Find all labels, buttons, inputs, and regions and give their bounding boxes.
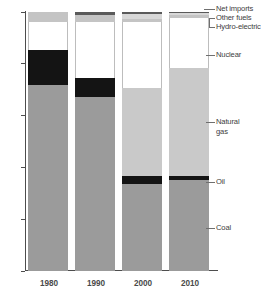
bar-segment-net-imports-2000 — [122, 12, 162, 15]
legend-label-oil: Oil — [216, 178, 225, 187]
legend-label-hydro-electric: Hydro-electric — [216, 23, 261, 32]
bar-segment-nuclear-1990 — [75, 22, 115, 78]
bar-segment-hydro-electric-1990 — [75, 15, 115, 21]
bar-segment-net-imports-2010 — [169, 12, 209, 13]
legend-label-natural: Natural — [216, 118, 239, 127]
x-axis-label-2000: 2000 — [123, 279, 163, 288]
legend-label-gas: gas — [216, 128, 228, 137]
bar-segment-coal-1980 — [28, 85, 68, 270]
bar-segment-other-fuels-2000 — [122, 14, 162, 19]
bar-segment-hydro-electric-1980 — [28, 12, 68, 22]
bar-segment-natural-gas-2010 — [169, 68, 209, 175]
x-axis-label-1980: 1980 — [29, 279, 69, 288]
bar-segment-oil-1980 — [28, 50, 68, 85]
y-axis-line — [25, 11, 26, 271]
bar-2010 — [169, 12, 209, 271]
bar-segment-nuclear-2010 — [169, 18, 209, 69]
bar-segment-other-fuels-2010 — [169, 13, 209, 16]
leader-line-coal — [206, 228, 215, 229]
bar-segment-coal-2000 — [122, 184, 162, 271]
leader-line-net-imports — [204, 9, 215, 10]
stacked-bar-chart: 100% 80% 60% 40% 20% 0% 1980 1990 2000 2… — [0, 0, 263, 290]
x-axis-label-2010: 2010 — [170, 279, 210, 288]
bar-segment-nuclear-1980 — [28, 22, 68, 50]
bar-segment-hydro-electric-2010 — [169, 15, 209, 18]
bar-segment-oil-2010 — [169, 176, 209, 180]
bar-segment-nuclear-2000 — [122, 22, 162, 88]
bar-segment-oil-2000 — [122, 176, 162, 184]
bar-1990 — [75, 12, 115, 271]
bar-2000 — [122, 12, 162, 271]
legend-label-coal: Coal — [216, 224, 231, 233]
bar-segment-net-imports-1990 — [75, 12, 115, 16]
bar-segment-coal-1990 — [75, 97, 115, 271]
bar-segment-coal-2010 — [169, 180, 209, 271]
legend-label-nuclear: Nuclear — [216, 51, 241, 60]
leader-line-natural-gas — [206, 122, 215, 123]
leader-bracket-top — [209, 18, 210, 28]
bar-1980 — [28, 12, 68, 271]
leader-line-oil — [206, 182, 215, 183]
bar-segment-natural-gas-2000 — [122, 88, 162, 176]
bar-segment-hydro-electric-2000 — [122, 19, 162, 22]
x-axis-label-1990: 1990 — [76, 279, 116, 288]
bar-segment-oil-1990 — [75, 78, 115, 97]
leader-line-nuclear — [206, 55, 215, 56]
